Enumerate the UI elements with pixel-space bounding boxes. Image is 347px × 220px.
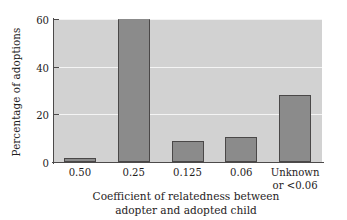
bar: [225, 137, 257, 162]
x-axis-tick-label: 0.06: [214, 167, 268, 180]
y-axis-tick: [54, 162, 59, 163]
y-axis-line: [53, 18, 54, 164]
x-axis-tick-label-line-1: Unknown: [268, 167, 322, 180]
bar: [279, 95, 311, 162]
x-axis-title-line-2: adopter and adopted child: [46, 204, 326, 218]
y-axis-tick-label: 60: [36, 15, 49, 26]
y-axis-tick-label: 0: [43, 158, 49, 169]
gridline: [54, 19, 322, 20]
bar: [118, 19, 150, 162]
x-axis-title: Coefficient of relatedness between adopt…: [46, 190, 326, 217]
plot-area: 0204060: [53, 19, 322, 163]
x-axis-tick-label-line-1: 0.50: [53, 167, 107, 180]
bar: [172, 141, 204, 162]
x-axis-tick-label: 0.125: [161, 167, 215, 180]
y-axis-tick: [54, 67, 59, 68]
y-axis-tick-label: 20: [36, 110, 49, 121]
y-axis-tick: [54, 19, 59, 20]
bar-chart-figure: Percentage of adoptions 0204060 0.500.25…: [0, 0, 347, 220]
x-axis-tick-label-line-1: 0.25: [107, 167, 161, 180]
x-axis-tick-label: Unknownor <0.06: [268, 167, 322, 192]
x-axis-tick-label: 0.25: [107, 167, 161, 180]
gridline: [54, 67, 322, 68]
y-axis-tick-label: 40: [36, 62, 49, 73]
bar: [64, 158, 96, 162]
y-axis-tick: [54, 114, 59, 115]
x-axis-title-line-1: Coefficient of relatedness between: [46, 190, 326, 204]
x-axis-tick-label: 0.50: [53, 167, 107, 180]
x-axis-line: [52, 162, 324, 163]
y-axis-title: Percentage of adoptions: [10, 17, 22, 167]
x-axis-tick-label-line-1: 0.06: [214, 167, 268, 180]
x-axis-tick-label-line-1: 0.125: [161, 167, 215, 180]
